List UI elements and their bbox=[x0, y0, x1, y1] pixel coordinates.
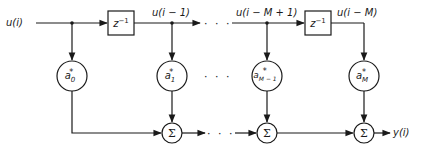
ellipsis-bottom: · · · bbox=[207, 128, 234, 139]
coef-label-1: a1* bbox=[157, 71, 187, 84]
summer-symbol-m1: Σ bbox=[257, 128, 277, 139]
tap-label-m1: u(i − M + 1) bbox=[236, 8, 297, 18]
tap-label-1: u(i − 1) bbox=[152, 8, 190, 18]
summer-symbol-1: Σ bbox=[162, 128, 182, 139]
ellipsis-top: · · · bbox=[204, 18, 231, 29]
coef-label-m1: aM − 1* bbox=[252, 71, 282, 82]
delay-exp: −1 bbox=[315, 17, 325, 25]
output-label: y(i) bbox=[393, 128, 410, 138]
delay-label-1: z−1 bbox=[108, 18, 134, 29]
tap-label-m: u(i − M) bbox=[337, 8, 377, 18]
input-label: u(i) bbox=[6, 18, 23, 28]
ellipsis-middle: · · · bbox=[204, 71, 231, 82]
summer-symbol-m: Σ bbox=[354, 128, 374, 139]
delay-label-2: z−1 bbox=[305, 18, 331, 29]
delay-exp: −1 bbox=[118, 17, 128, 25]
coef-label-m: aM* bbox=[349, 71, 379, 84]
coef0-to-sum1-line bbox=[72, 91, 161, 133]
coef-label-0: a0* bbox=[57, 71, 87, 84]
